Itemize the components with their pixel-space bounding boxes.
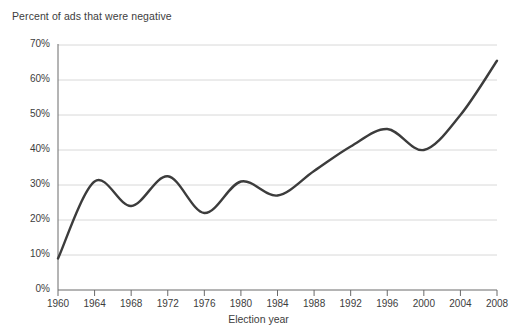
axes-group (58, 44, 497, 290)
y-tick-label-0%: 0% (10, 283, 50, 294)
x-tick-marks-group (58, 290, 497, 296)
gridlines-group (58, 45, 497, 255)
data-series-group (58, 61, 497, 259)
y-tick-label-60%: 60% (10, 73, 50, 84)
plot-area (0, 0, 517, 336)
y-tick-label-40%: 40% (10, 143, 50, 154)
chart-canvas (0, 0, 517, 336)
x-tick-label-2008: 2008 (475, 298, 517, 309)
y-tick-label-50%: 50% (10, 108, 50, 119)
y-tick-label-20%: 20% (10, 213, 50, 224)
y-tick-label-10%: 10% (10, 248, 50, 259)
y-tick-label-70%: 70% (10, 38, 50, 49)
data-line-percent-negative-ads (58, 61, 497, 259)
y-tick-label-30%: 30% (10, 178, 50, 189)
x-axis-title: Election year (0, 313, 517, 325)
negative-ads-line-chart: Percent of ads that were negative 0%10%2… (0, 0, 517, 336)
